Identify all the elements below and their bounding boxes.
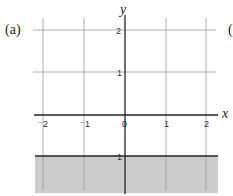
panel-label: (a) [5, 22, 21, 38]
x-tick-1: 1 [164, 119, 169, 129]
right-edge-label: ( [228, 22, 233, 38]
shaded-region [35, 156, 218, 193]
y-axis-label: y [118, 2, 127, 17]
x-tick-2: 2 [204, 119, 209, 129]
y-tick-neg1: ⁻1 [112, 152, 122, 162]
x-tick-0: 0 [122, 119, 127, 129]
x-axis-label: x [221, 106, 229, 121]
graph: ⁻2 ⁻1 0 1 2 2 1 ⁻1 x y (a) ( [0, 0, 233, 196]
x-tick-neg2: ⁻2 [38, 119, 48, 129]
y-tick-2: 2 [116, 26, 121, 36]
x-tick-neg1: ⁻1 [80, 119, 90, 129]
y-tick-1: 1 [117, 68, 122, 78]
